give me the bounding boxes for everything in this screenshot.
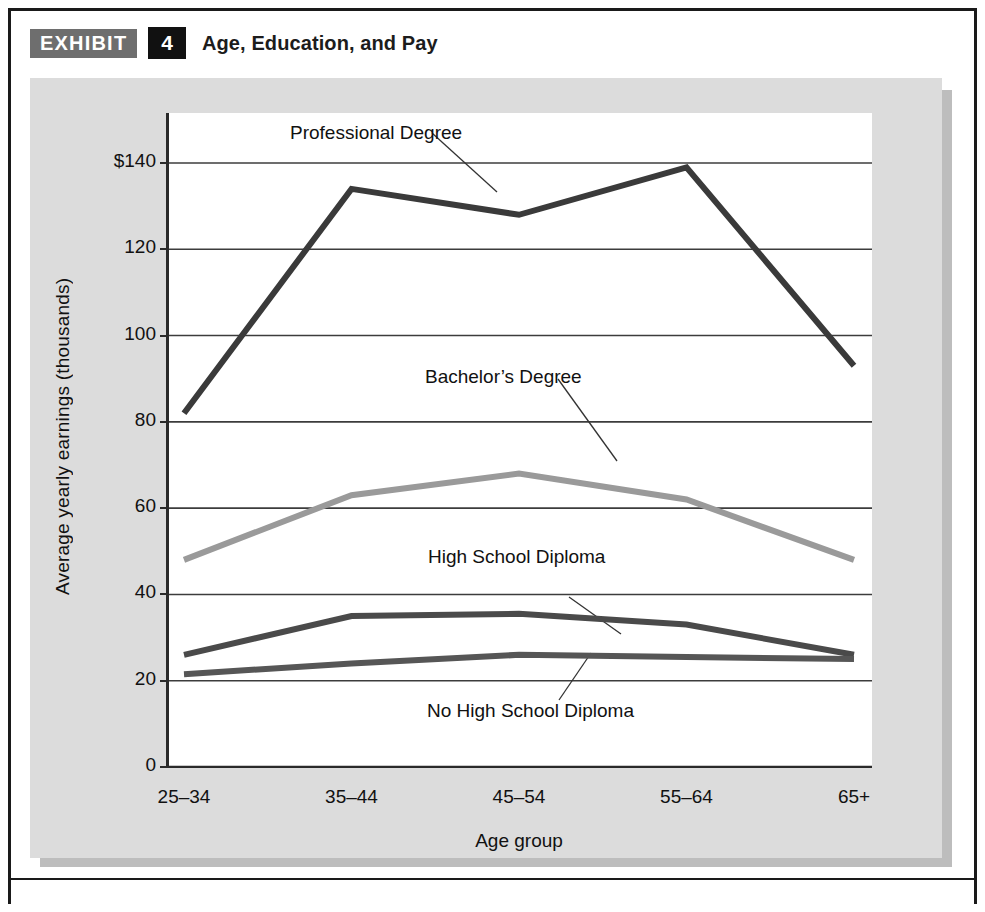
exhibit-word-badge: EXHIBIT [30, 29, 137, 58]
y-tick-label-80: 80 [82, 409, 156, 431]
y-tick-label-120: 120 [82, 236, 156, 258]
y-axis-title: Average yearly earnings (thousands) [52, 196, 82, 676]
page-frame-left-rule [8, 8, 11, 904]
y-tick-label-20: 20 [82, 668, 156, 690]
y-tick-label-140: $140 [82, 150, 156, 172]
page-frame-top-rule [8, 8, 977, 11]
gridlines [166, 163, 872, 681]
y-tick-label-0: 0 [82, 754, 156, 776]
series-label-bachelor-s-degree: Bachelor’s Degree [425, 366, 582, 388]
page-frame-right-rule [974, 8, 977, 904]
x-tick-label-0: 25–34 [124, 786, 244, 808]
plot-area [166, 113, 872, 768]
y-tick-label-100: 100 [82, 323, 156, 345]
y-tick-label-60: 60 [82, 495, 156, 517]
exhibit-page: EXHIBIT 4 Age, Education, and Pay Averag… [0, 0, 985, 912]
exhibit-header: EXHIBIT 4 Age, Education, and Pay [30, 27, 438, 59]
data-series-lines [184, 167, 854, 674]
y-tick-label-40: 40 [82, 581, 156, 603]
x-tick-label-3: 55–64 [627, 786, 747, 808]
x-tick-label-1: 35–44 [292, 786, 412, 808]
series-label-professional-degree: Professional Degree [290, 122, 462, 144]
chart-plate-shadow-right [942, 90, 952, 858]
series-line-no-high-school-diploma [184, 655, 854, 674]
series-label-no-high-school-diploma: No High School Diploma [427, 700, 634, 722]
line-chart-svg [166, 113, 872, 768]
x-axis-title: Age group [166, 830, 872, 852]
series-line-high-school-diploma [184, 614, 854, 655]
x-tick-label-2: 45–54 [459, 786, 579, 808]
leader-bachelors-degree [558, 379, 617, 461]
x-tick-label-4: 65+ [794, 786, 914, 808]
chart-plate-shadow-bottom [40, 858, 952, 867]
exhibit-number-badge: 4 [148, 27, 186, 59]
series-label-high-school-diploma: High School Diploma [428, 546, 605, 568]
leader-no-high-school-diploma [559, 653, 591, 700]
page-title: Age, Education, and Pay [202, 32, 438, 55]
page-frame-bottom-rule [8, 878, 977, 880]
